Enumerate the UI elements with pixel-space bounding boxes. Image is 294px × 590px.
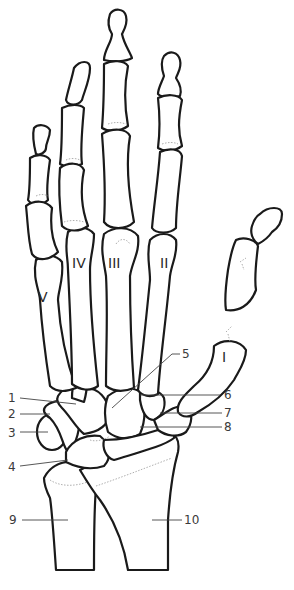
callout-10: 10 — [184, 513, 199, 527]
middle-phalanx-iii — [102, 61, 128, 131]
callout-2: 2 — [8, 407, 16, 421]
numeral-iv: IV — [72, 255, 86, 271]
digit-ii-phalanges — [152, 53, 182, 233]
metacarpal-ii — [138, 234, 176, 396]
numeral-iii: III — [108, 255, 120, 271]
callout-5: 5 — [182, 347, 190, 361]
middle-phalanx-iv — [60, 105, 84, 167]
hand-skeleton-diagram: V IV III II I 1 2 3 4 5 6 7 8 9 10 — [0, 0, 294, 590]
proximal-phalanx-ii — [152, 149, 182, 232]
distal-phalanx-v — [33, 125, 50, 154]
callout-3: 3 — [8, 426, 16, 440]
numeral-v: V — [38, 289, 48, 305]
proximal-phalanx-iii — [102, 130, 134, 228]
proximal-phalanx-i — [225, 238, 258, 310]
callout-8: 8 — [224, 420, 232, 434]
distal-phalanx-iv — [66, 62, 90, 105]
digit-v-phalanges — [26, 125, 58, 259]
callout-6: 6 — [224, 388, 232, 402]
digit-iii-phalanges — [102, 10, 134, 228]
numeral-ii: II — [160, 255, 168, 271]
callout-4: 4 — [8, 460, 16, 474]
middle-phalanx-v — [28, 155, 50, 204]
metacarpal-iv — [66, 228, 98, 390]
callout-9: 9 — [9, 513, 17, 527]
metacarpal-bones — [35, 228, 246, 417]
numeral-i: I — [222, 349, 226, 365]
distal-phalanx-ii — [158, 53, 181, 98]
distal-phalanx-iii — [104, 10, 132, 62]
callout-7: 7 — [224, 406, 232, 420]
proximal-phalanx-v — [26, 202, 58, 259]
digit-i-phalanges — [225, 208, 282, 342]
digit-iv-phalanges — [59, 62, 90, 231]
middle-phalanx-ii — [158, 95, 182, 151]
distal-phalanx-i — [251, 208, 282, 244]
callout-1: 1 — [8, 391, 16, 405]
metacarpal-iii — [102, 228, 138, 391]
